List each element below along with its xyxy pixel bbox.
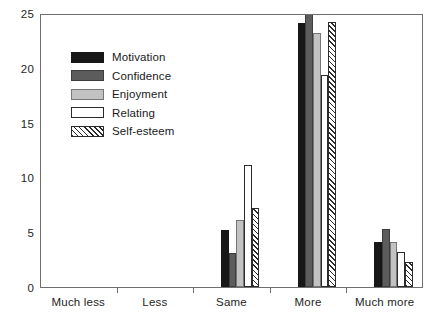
legend-swatch-motivation-icon	[71, 52, 104, 63]
legend-item-relating: Relating	[71, 104, 174, 123]
y-tick-label: 0	[27, 282, 34, 294]
bar-motivation-much-more	[374, 242, 382, 287]
bar-motivation-same	[221, 230, 229, 287]
y-tick-label: 20	[21, 63, 34, 75]
legend-swatch-relating-icon	[71, 107, 104, 118]
x-tick-label-less: Less	[142, 296, 167, 308]
legend-item-confidence: Confidence	[71, 67, 174, 86]
bar-motivation-more	[298, 23, 306, 287]
legend-swatch-selfesteem-icon	[71, 126, 104, 137]
bar-relating-more	[321, 75, 329, 287]
bar-confidence-same	[229, 253, 237, 287]
bar-confidence-much-more	[382, 229, 390, 287]
x-tick-mark	[117, 288, 118, 293]
x-tick-mark	[270, 288, 271, 293]
legend-swatch-enjoyment-icon	[71, 89, 104, 100]
bar-enjoyment-much-more	[390, 242, 398, 287]
bar-chart: 0510152025 MotivationConfidenceEnjoyment…	[0, 0, 435, 326]
legend-label: Confidence	[112, 70, 171, 82]
legend-label: Relating	[112, 107, 155, 119]
x-tick-label-much-less: Much less	[52, 296, 106, 308]
x-tick-label-more: More	[295, 296, 322, 308]
legend-label: Motivation	[112, 51, 165, 63]
x-tick-label-same: Same	[216, 296, 247, 308]
plot-area: MotivationConfidenceEnjoymentRelatingSel…	[40, 14, 423, 288]
bar-enjoyment-more	[313, 33, 321, 287]
x-tick-mark	[193, 288, 194, 293]
bar-relating-same	[244, 165, 252, 287]
bar-selfesteem-same	[252, 208, 260, 287]
x-tick-mark	[346, 288, 347, 293]
x-tick-label-much-more: Much more	[355, 296, 414, 308]
y-axis: 0510152025	[0, 0, 34, 326]
y-tick-label: 10	[21, 172, 34, 184]
bar-selfesteem-much-more	[405, 262, 413, 287]
bar-confidence-more	[305, 14, 313, 287]
y-tick-label: 25	[21, 8, 34, 20]
legend-label: Self-esteem	[112, 125, 174, 137]
y-tick-label: 5	[27, 227, 34, 239]
bar-relating-much-more	[397, 252, 405, 287]
legend-item-selfesteem: Self-esteem	[71, 122, 174, 141]
legend-item-motivation: Motivation	[71, 48, 174, 67]
bar-enjoyment-same	[236, 220, 244, 287]
chart-legend: MotivationConfidenceEnjoymentRelatingSel…	[71, 48, 174, 141]
bar-selfesteem-more	[328, 22, 336, 287]
y-tick-label: 15	[21, 118, 34, 130]
legend-swatch-confidence-icon	[71, 70, 104, 81]
legend-label: Enjoyment	[112, 88, 167, 100]
legend-item-enjoyment: Enjoyment	[71, 85, 174, 104]
